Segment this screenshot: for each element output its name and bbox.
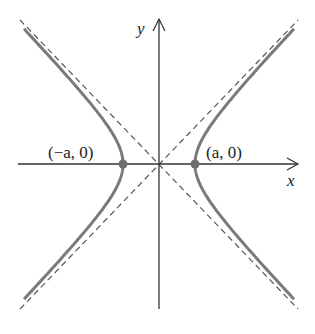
vertex-right-label: (a, 0) — [206, 143, 242, 162]
hyperbola-diagram: y x (−a, 0) (a, 0) — [0, 0, 315, 334]
vertex-left-label: (−a, 0) — [48, 143, 93, 162]
x-axis-label: x — [286, 171, 295, 190]
vertex-right — [191, 160, 200, 169]
vertex-left — [119, 160, 128, 169]
y-axis-label: y — [135, 19, 145, 38]
